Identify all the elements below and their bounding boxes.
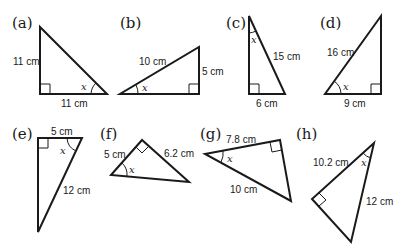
triangle-g: (g) x 7.8 cm 10 cm <box>200 125 291 201</box>
triangle-h: (h) x 10.2 cm 12 cm <box>296 125 393 242</box>
angle-arc-icon <box>91 83 96 94</box>
triangle-e-label: (e) <box>12 125 33 143</box>
right-angle-marker-icon <box>38 138 48 148</box>
right-angle-marker-icon <box>319 193 326 206</box>
angle-arc-icon <box>221 151 223 162</box>
triangle-exercise-figure: (a) x 11 cm 11 cm (b) x 10 cm 5 cm (c) x… <box>0 0 401 251</box>
triangle-g-label: (g) <box>200 125 221 143</box>
triangle-g-angle: x <box>227 153 233 164</box>
triangle-g-side-2: 10 cm <box>230 184 257 195</box>
angle-arc-icon <box>67 138 76 151</box>
triangle-c-angle: x <box>251 34 257 45</box>
triangle-d-angle: x <box>343 81 349 92</box>
angle-arc-icon <box>122 163 127 176</box>
triangle-f-angle: x <box>129 164 135 175</box>
triangle-e-side-2: 12 cm <box>63 185 90 196</box>
triangle-b: (b) x 10 cm 5 cm <box>120 14 224 94</box>
triangle-b-side-1: 10 cm <box>139 56 166 67</box>
triangle-a-side-1: 11 cm <box>13 56 40 67</box>
triangle-c-side-1: 15 cm <box>273 51 300 62</box>
triangle-g-side-1: 7.8 cm <box>226 134 256 145</box>
triangle-e-angle: x <box>60 145 66 156</box>
triangle-b-angle: x <box>142 82 148 93</box>
angle-arc-icon <box>136 85 138 94</box>
right-angle-marker-icon <box>249 84 259 94</box>
triangle-f-side-2: 6.2 cm <box>164 148 194 159</box>
triangle-d-side-1: 16 cm <box>327 47 354 58</box>
triangle-d: (d) x 16 cm 9 cm <box>320 14 381 109</box>
triangle-h-side-1: 10.2 cm <box>313 157 349 168</box>
triangle-f-label: (f) <box>100 125 117 143</box>
triangle-c: (c) x 15 cm 6 cm <box>226 14 300 109</box>
triangle-a-angle: x <box>81 81 87 92</box>
triangle-a: (a) x 11 cm 11 cm <box>12 14 107 109</box>
triangle-f-shape <box>111 140 189 182</box>
triangle-d-side-2: 9 cm <box>344 98 366 109</box>
right-angle-marker-icon <box>371 84 381 94</box>
triangle-b-label: (b) <box>120 14 141 32</box>
triangle-c-label: (c) <box>226 14 246 32</box>
triangle-d-label: (d) <box>320 14 341 32</box>
right-angle-marker-icon <box>40 84 50 94</box>
triangle-f: (f) x 5 cm 6.2 cm <box>100 125 194 182</box>
right-angle-marker-icon <box>136 146 149 153</box>
triangle-b-side-2: 5 cm <box>202 66 224 77</box>
triangle-e: (e) x 5 cm 12 cm <box>12 125 90 232</box>
triangle-h-angle: x <box>361 157 367 168</box>
angle-arc-icon <box>334 81 341 94</box>
triangle-b-shape <box>120 47 199 94</box>
triangle-f-side-1: 5 cm <box>104 149 126 160</box>
triangle-c-side-2: 6 cm <box>256 98 278 109</box>
triangle-a-label: (a) <box>12 14 33 32</box>
right-angle-marker-icon <box>189 84 199 94</box>
angle-arc-icon <box>249 31 256 33</box>
triangle-h-label: (h) <box>296 125 317 143</box>
triangle-e-side-1: 5 cm <box>51 126 73 137</box>
triangle-a-side-2: 11 cm <box>61 98 88 109</box>
triangle-h-side-2: 12 cm <box>366 196 393 207</box>
